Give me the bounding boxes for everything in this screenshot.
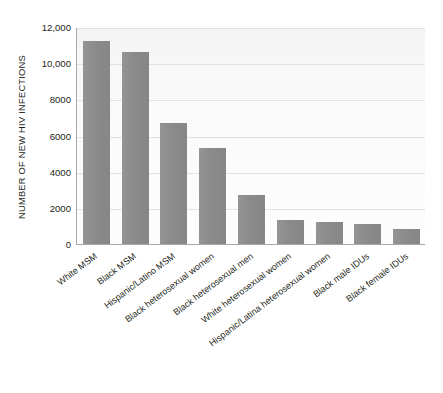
y-tick-label: 12,000 (0, 23, 71, 33)
y-axis-tick-labels: 12,00010,00080006000400020000 (0, 28, 71, 245)
bar[interactable] (199, 148, 226, 244)
bar[interactable] (393, 229, 420, 244)
bar[interactable] (277, 220, 304, 244)
y-tick-label: 6000 (0, 132, 71, 142)
y-tick-label: 10,000 (0, 59, 71, 69)
y-tick-label: 4000 (0, 168, 71, 178)
bar[interactable] (238, 195, 265, 244)
y-tick-label: 0 (0, 240, 71, 250)
bar[interactable] (160, 123, 187, 244)
bar[interactable] (122, 52, 149, 244)
bar[interactable] (316, 222, 343, 244)
hiv-infections-bar-chart: NUMBER OF NEW HIV INFECTIONS 12,00010,00… (0, 0, 443, 393)
plot-area (76, 28, 425, 245)
x-tick-label: Hispanic/Latino MSM (102, 251, 177, 311)
bars-layer (77, 28, 425, 244)
x-tick-label: White MSM (56, 251, 100, 287)
y-tick-label: 8000 (0, 95, 71, 105)
bar[interactable] (354, 224, 381, 244)
y-tick-label: 2000 (0, 204, 71, 214)
bar[interactable] (83, 41, 110, 244)
